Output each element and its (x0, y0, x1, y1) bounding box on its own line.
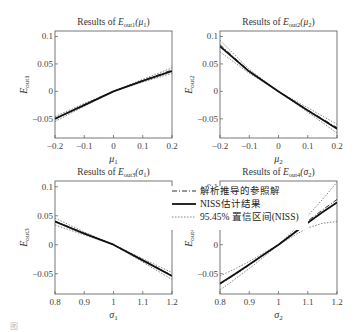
y-tick-label: 0 (214, 240, 219, 250)
figure-caption: 图 (10, 322, 18, 331)
y-tick-label: 0 (214, 86, 219, 96)
x-tick-label: 0.1 (137, 141, 148, 151)
x-axis-label: σ1 (109, 309, 118, 322)
subplot-title: Results of Eout1(μ1) (77, 17, 149, 28)
y-axis-label: Eout2 (183, 75, 196, 95)
legend: 解析推导的参照解NISS估计结果95.45% 置信区间(NISS) (168, 185, 308, 230)
plot-area (55, 31, 172, 138)
legend-item-label: NISS估计结果 (200, 198, 261, 209)
x-tick-label: 0.1 (302, 141, 313, 151)
x-tick-label: 0.8 (49, 297, 61, 307)
subplot-3: Results of Eout3(σ1)0.80.911.11.20.10.05… (18, 167, 178, 322)
x-tick-label: 1.1 (137, 297, 148, 307)
y-tick-label: 0.1 (207, 31, 218, 41)
x-tick-label: 0 (276, 141, 281, 151)
series-line (220, 46, 337, 128)
legend-item-label: 95.45% 置信区间(NISS) (200, 211, 299, 223)
y-tick-label: −0.05 (32, 114, 53, 124)
y-axis-label: Eout4 (183, 228, 196, 248)
figure: Results of Eout1(μ1)−0.2−0.100.10.20.10.… (0, 0, 354, 332)
plot-area (55, 181, 172, 294)
series-line (55, 222, 172, 276)
x-axis-label: μ2 (273, 153, 283, 166)
subplot-title: Results of Eout4(σ2) (242, 167, 314, 178)
y-tick-label: 0 (49, 240, 54, 250)
y-tick-label: 0.1 (42, 31, 53, 41)
series-line (55, 73, 172, 121)
series-line (220, 45, 337, 128)
series-line (220, 52, 337, 133)
x-tick-label: −0.1 (76, 141, 92, 151)
y-axis-label: Eout3 (18, 228, 31, 248)
x-tick-label: 1.1 (302, 297, 313, 307)
subplot-title: Results of Eout2(μ2) (242, 17, 314, 28)
x-tick-label: 1.2 (331, 297, 342, 307)
x-tick-label: 0 (111, 141, 116, 151)
x-tick-label: 1 (276, 297, 281, 307)
y-tick-label: 0.1 (42, 182, 53, 192)
x-axis-label: μ1 (108, 153, 118, 166)
legend-item-label: 解析推导的参照解 (200, 185, 280, 196)
x-tick-label: 1 (111, 297, 116, 307)
x-tick-label: 0.9 (79, 297, 91, 307)
y-tick-label: −0.05 (197, 269, 218, 279)
y-tick-label: 0.05 (37, 59, 53, 69)
y-tick-label: 0.05 (37, 211, 53, 221)
x-tick-label: 0.9 (244, 297, 256, 307)
y-tick-label: −0.05 (197, 114, 218, 124)
series-line (220, 40, 337, 124)
subplot-2: Results of Eout2(μ2)−0.2−0.100.10.20.10.… (183, 17, 343, 166)
y-tick-label: 0.05 (202, 59, 218, 69)
x-tick-label: −0.2 (47, 141, 63, 151)
x-tick-label: −0.1 (241, 141, 257, 151)
x-tick-label: 1.2 (166, 297, 177, 307)
x-tick-label: 0.2 (166, 141, 177, 151)
series-line (55, 225, 172, 280)
plot-area (220, 31, 337, 138)
y-axis-label: Eout1 (18, 75, 31, 95)
y-tick-label: −0.05 (32, 269, 53, 279)
x-axis-label: σ2 (274, 309, 283, 322)
x-tick-label: 0.2 (331, 141, 342, 151)
subplot-1: Results of Eout1(μ1)−0.2−0.100.10.20.10.… (18, 17, 178, 166)
subplot-title: Results of Eout3(σ1) (77, 167, 149, 178)
y-tick-label: 0 (49, 86, 54, 96)
x-tick-label: 0.8 (214, 297, 226, 307)
x-tick-label: −0.2 (212, 141, 228, 151)
